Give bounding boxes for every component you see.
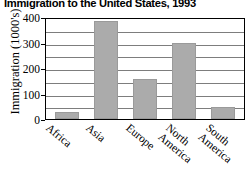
x-axis-tick-labels: AfricaAsiaEuropeNorthAmericaSouthAmerica	[45, 122, 245, 176]
bar-series	[46, 19, 244, 119]
y-tick-label: 100	[16, 90, 40, 101]
y-tick-label: 300	[16, 39, 40, 50]
bar-slot	[164, 19, 203, 119]
y-tick-mark	[41, 44, 45, 45]
x-tick-label: NorthAmerica	[157, 122, 202, 165]
x-tick-label: Africa	[44, 122, 74, 150]
y-tick-mark	[41, 95, 45, 96]
bar	[172, 43, 196, 120]
x-tick-label: Asia	[84, 122, 108, 144]
bar-slot	[126, 19, 165, 119]
chart-title: Immigration to the United States, 1993	[4, 0, 250, 9]
y-tick-mark	[41, 120, 45, 121]
y-tick-label: 0	[16, 115, 40, 126]
plot-area	[45, 18, 245, 120]
bar	[94, 21, 118, 119]
bar	[55, 112, 79, 119]
bar-slot	[48, 19, 87, 119]
y-tick-mark	[41, 69, 45, 70]
x-tick-label: SouthAmerica	[197, 122, 242, 165]
y-tick-label: 400	[16, 13, 40, 24]
bar	[211, 107, 235, 119]
bar-slot	[203, 19, 242, 119]
y-axis-tick-labels: 4003002001000	[16, 12, 40, 124]
bar-slot	[87, 19, 126, 119]
y-tick-mark	[41, 18, 45, 19]
x-tick-label: Europe	[124, 122, 157, 152]
y-tick-label: 200	[16, 64, 40, 75]
bar	[133, 79, 157, 119]
